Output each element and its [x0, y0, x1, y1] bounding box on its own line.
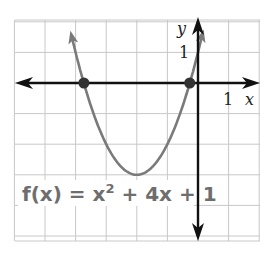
- x-axis-label: x: [245, 90, 254, 109]
- function-graph: y 1 1 x f(x) = x2 + 4x + 1: [0, 0, 274, 268]
- axes: [15, 17, 260, 241]
- grid: [14, 20, 260, 241]
- x-intercept-point: [78, 78, 89, 89]
- equation-suffix: + 4x + 1: [115, 182, 217, 206]
- x-tick-label: 1: [223, 90, 233, 109]
- y-axis-label: y: [176, 19, 187, 38]
- y-tick-label: 1: [179, 43, 189, 62]
- equation-prefix: f(x) = x: [22, 182, 106, 206]
- x-intercept-point: [184, 78, 195, 89]
- equation-exponent: 2: [105, 181, 114, 196]
- equation-label: f(x) = x2 + 4x + 1: [22, 181, 217, 206]
